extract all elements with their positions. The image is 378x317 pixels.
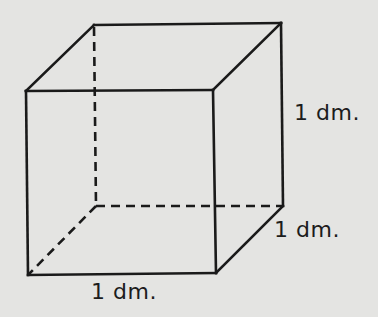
height-label: 1 dm. [294, 102, 360, 124]
cube-figure [0, 0, 378, 317]
hidden-back-left-edge [94, 27, 96, 206]
front-right-edge [213, 90, 216, 273]
back-right-edge [281, 23, 283, 206]
top-right-receding-edge [213, 23, 281, 90]
diagram-canvas: 1 dm. 1 dm. 1 dm. [0, 0, 378, 317]
front-left-edge [26, 91, 28, 275]
width-label: 1 dm. [91, 281, 157, 303]
front-bottom-edge [28, 273, 216, 275]
bottom-right-receding-edge [216, 206, 283, 273]
top-left-receding-edge [26, 25, 94, 91]
front-top-edge [26, 90, 213, 91]
hidden-bottom-left-receding-edge [28, 206, 96, 275]
back-top-edge [94, 23, 281, 25]
depth-label: 1 dm. [274, 219, 340, 241]
